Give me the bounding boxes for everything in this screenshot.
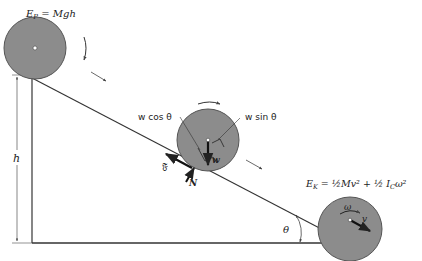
- incline-diagram: h θ EP = Mgh w w cos θ w sin θ 𝔉: [0, 0, 422, 261]
- angle-theta: θ: [283, 215, 301, 242]
- normal-label: N: [188, 178, 198, 188]
- w-cos-theta-label: w cos θ: [138, 112, 172, 122]
- height-label: h: [13, 152, 20, 165]
- weight-label: w: [212, 155, 220, 165]
- friction-label: 𝔉: [162, 162, 168, 172]
- potential-energy-label: EP = Mgh: [25, 8, 76, 21]
- omega-label: ω: [344, 202, 352, 212]
- w-sin-theta-label: w sin θ: [245, 112, 277, 122]
- axle-dot: [348, 218, 352, 222]
- axle-dot: [206, 138, 210, 142]
- top-disk: EP = Mgh: [4, 8, 86, 79]
- motion-arrow-icon: [91, 72, 106, 81]
- rotation-arrow-icon: [84, 37, 86, 60]
- velocity-label: v: [362, 214, 367, 224]
- theta-label: θ: [283, 224, 289, 235]
- motion-arrow-icon: [246, 160, 262, 169]
- rotation-arrow-icon: [198, 102, 220, 104]
- middle-disk: w w cos θ w sin θ 𝔉 N: [138, 102, 277, 188]
- bottom-disk: ω v EK = ½Mv² + ½ ICω²: [305, 178, 407, 261]
- height-dimension: h: [12, 75, 32, 243]
- axle-dot: [33, 46, 37, 50]
- kinetic-energy-label: EK = ½Mv² + ½ ICω²: [305, 178, 407, 191]
